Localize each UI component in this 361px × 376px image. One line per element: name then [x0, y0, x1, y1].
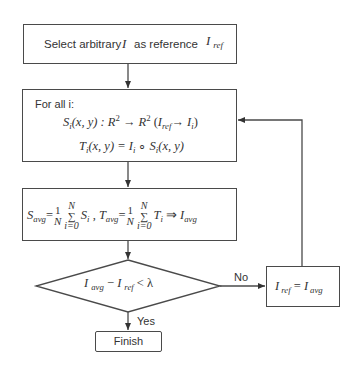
decision-condition: Iavg − Iref < λ [84, 276, 153, 292]
flowchart: Select arbitrary I as reference Iref For… [0, 0, 361, 376]
transform-box: For all i: Si(x, y) : R2 → R2 (Iref→ Ii)… [22, 89, 237, 162]
average-formula: Savg=1NN∑i=0Si , Tavg=1NN∑i=0Ti ⇒ Iavg [27, 196, 197, 238]
yes-label: Yes [137, 315, 155, 327]
start-var-i: I [122, 36, 126, 52]
transform-line-2: Ti(x, y) = Ii ∘ Si(x, y) [79, 138, 184, 155]
start-text-prefix: Select arbitrary [44, 38, 121, 50]
finish-label: Finish [96, 335, 161, 347]
transform-header: For all i: [35, 98, 74, 110]
update-box: Iref = Iavg [266, 266, 340, 307]
start-ref-var: Iref [206, 33, 223, 50]
no-label: No [234, 271, 248, 283]
update-formula: Iref = Iavg [275, 279, 323, 295]
start-text-mid: as reference [134, 38, 198, 50]
finish-box: Finish [95, 331, 162, 352]
arrow-feedback-loop [238, 120, 302, 266]
transform-line-1: Si(x, y) : R2 → R2 (Iref→ Ii) [63, 113, 198, 131]
average-box: Savg=1NN∑i=0Si , Tavg=1NN∑i=0Ti ⇒ Iavg [22, 188, 237, 241]
start-box: Select arbitrary I as reference Iref [23, 24, 237, 64]
